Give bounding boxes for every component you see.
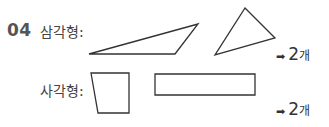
rectangle-shape-2 — [155, 74, 255, 95]
arrow-right-icon: ➡ — [276, 105, 285, 118]
quadrilateral-answer: ➡2개 — [276, 99, 310, 119]
triangle-shape-2 — [215, 8, 275, 55]
quadrilateral-count: 2 — [288, 99, 299, 119]
quadrilateral-shape-1 — [91, 73, 129, 113]
triangle-count: 2 — [288, 44, 299, 64]
quadrilateral-unit: 개 — [299, 104, 310, 118]
triangle-unit: 개 — [299, 49, 310, 63]
triangle-answer: ➡2개 — [276, 44, 310, 64]
arrow-right-icon: ➡ — [276, 50, 285, 63]
triangle-shape-1 — [89, 24, 198, 54]
